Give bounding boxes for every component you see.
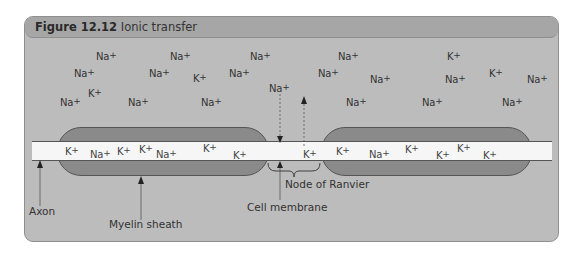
myelin-pointer-arrowhead <box>138 176 144 184</box>
node-of-ranvier-label: Node of Ranvier <box>285 178 369 190</box>
cell-membrane-pointer-arrowhead <box>277 161 283 168</box>
node-brace <box>268 163 320 177</box>
axon-pointer-arrowhead <box>37 160 43 168</box>
myelin-sheath-label: Myelin sheath <box>109 218 182 230</box>
cell-membrane-label: Cell membrane <box>247 201 327 213</box>
axon-label: Axon <box>29 205 55 217</box>
annotation-arrows <box>0 0 581 263</box>
k-efflux-arrowhead <box>301 96 307 104</box>
na-influx-arrowhead <box>277 136 283 143</box>
